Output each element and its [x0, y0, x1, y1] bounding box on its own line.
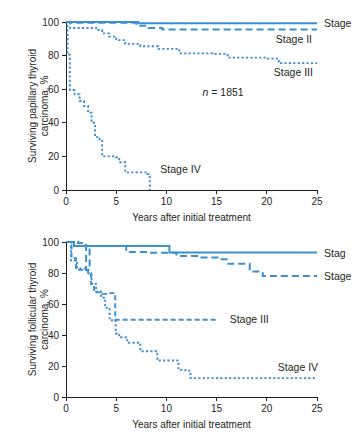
x-axis-title: Years after initial treatment	[132, 419, 251, 430]
y-axis-title-line: Surviving follicular thyroid	[27, 263, 38, 376]
x-tick-label: 10	[161, 403, 173, 414]
curve-stage-iv	[66, 22, 150, 190]
x-tick-label: 15	[211, 403, 223, 414]
y-tick-label: 80	[48, 50, 60, 61]
sample-size-equals: =	[208, 86, 220, 98]
x-tick-label: 15	[211, 196, 223, 207]
y-axis-title-line: carcinoma, %	[39, 76, 50, 137]
series-label-stage-i: Stag	[324, 247, 346, 259]
y-tick-label: 100	[42, 237, 59, 248]
series-label-stage-iii: Stage III	[274, 66, 313, 78]
chart-follicular-canvas: 0204060801000510152025Years after initia…	[0, 222, 359, 441]
x-tick-label: 5	[113, 403, 119, 414]
series-label-stage-iv: Stage IV	[160, 163, 200, 175]
x-tick-label: 0	[63, 403, 69, 414]
y-axis-title-line: Surviving papillary thyroid	[27, 49, 38, 163]
chart-papillary: 0204060801000510152025Years after initia…	[0, 0, 359, 222]
chart-papillary-canvas: 0204060801000510152025Years after initia…	[0, 0, 359, 222]
series-label-stage-ii: Stage	[324, 270, 352, 282]
y-tick-label: 0	[53, 392, 59, 403]
x-tick-label: 25	[311, 403, 323, 414]
y-tick-label: 100	[42, 17, 59, 28]
x-tick-label: 5	[113, 196, 119, 207]
series-label-stage-iv: Stage IV	[278, 361, 318, 373]
x-tick-label: 25	[311, 196, 323, 207]
figure-survival-curves: 0204060801000510152025Years after initia…	[0, 0, 359, 441]
x-tick-label: 20	[261, 196, 273, 207]
y-tick-label: 0	[53, 185, 59, 196]
curve-stage-i	[66, 242, 317, 253]
series-label-stage-i: Stage	[324, 17, 352, 29]
y-tick-label: 80	[48, 268, 60, 279]
series-label-stage-ii: Stage II	[276, 33, 312, 45]
sample-size-value: 1851	[220, 86, 244, 98]
series-label-stage-iii: Stage III	[230, 313, 269, 325]
curve-stage-ii	[66, 242, 317, 276]
x-tick-label: 10	[161, 196, 173, 207]
y-axis-title-line: carcinoma, %	[39, 289, 50, 350]
y-tick-label: 20	[48, 361, 60, 372]
sample-size-annotation: n = 1851	[203, 86, 244, 98]
y-tick-label: 20	[48, 151, 60, 162]
curve-stage-iv	[66, 242, 317, 378]
chart-follicular: 0204060801000510152025Years after initia…	[0, 222, 359, 441]
x-tick-label: 0	[63, 196, 69, 207]
x-tick-label: 20	[261, 403, 273, 414]
